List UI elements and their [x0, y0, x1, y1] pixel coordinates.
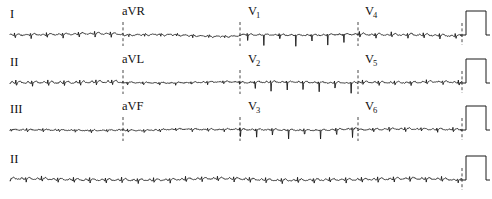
lead-label-avr: aVR [122, 4, 146, 18]
row-label-lead-i: I [10, 7, 14, 21]
ecg-svg-canvas: I II III II aVR aVL aVF V 1 V 2 V 3 V [0, 0, 492, 199]
lead-label-avl: aVL [122, 52, 144, 66]
lead-label-v5-subscript: 5 [373, 58, 377, 68]
row-label-lead-iii: III [10, 102, 23, 116]
lead-label-avf: aVF [122, 99, 144, 113]
row-label-rhythm-lead-ii: II [10, 152, 18, 166]
lead-label-v6-subscript: 6 [373, 105, 377, 115]
lead-label-v1-subscript: 1 [256, 10, 260, 20]
row-label-lead-ii: II [10, 55, 18, 69]
lead-label-v3-subscript: 3 [256, 105, 260, 115]
chart-background [0, 0, 492, 199]
lead-label-v2-subscript: 2 [256, 58, 260, 68]
ecg-chart: I II III II aVR aVL aVF V 1 V 2 V 3 V [0, 0, 492, 199]
